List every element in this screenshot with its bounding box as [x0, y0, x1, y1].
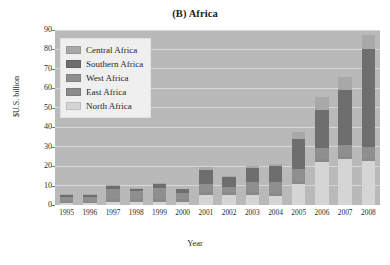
bar-segment[interactable] [292, 139, 305, 169]
chart-title: (B) Africa [0, 8, 390, 19]
legend-item-label: Central Africa [86, 46, 137, 55]
x-axis-tick-label: 2003 [241, 208, 264, 217]
bar-stack[interactable] [315, 97, 328, 205]
x-axis-tick-label: 2001 [194, 208, 217, 217]
bar-segment[interactable] [153, 202, 166, 205]
bar-stack[interactable] [60, 194, 73, 205]
gridline [55, 185, 380, 186]
legend-item[interactable]: Southern Africa [66, 57, 143, 71]
y-axis-tick-label: 70 [22, 65, 52, 73]
y-axis-tick-label: 10 [22, 182, 52, 190]
x-axis-tick-label: 2005 [287, 208, 310, 217]
y-axis-tick-label: 90 [22, 26, 52, 34]
bar-segment[interactable] [199, 184, 212, 193]
bar-segment[interactable] [315, 162, 328, 205]
bar-segment[interactable] [222, 177, 235, 187]
bar-segment[interactable] [362, 161, 375, 205]
x-axis-tick-label: 2004 [264, 208, 287, 217]
legend-item-label: East Africa [86, 88, 126, 97]
x-axis-tick-label: 2000 [171, 208, 194, 217]
bar-segment[interactable] [246, 182, 259, 193]
bar-segment[interactable] [83, 203, 96, 205]
legend-item[interactable]: East Africa [66, 85, 143, 99]
bar-stack[interactable] [292, 132, 305, 205]
x-axis-tick-label: 2002 [218, 208, 241, 217]
bar-stack[interactable] [176, 189, 189, 205]
gridline [55, 127, 380, 128]
legend-swatch-icon [66, 46, 81, 54]
bar-stack[interactable] [106, 185, 119, 205]
y-axis-tick-label: 50 [22, 104, 52, 112]
x-axis-tick-label: 1996 [78, 208, 101, 217]
y-axis-tick-mark [51, 88, 55, 89]
bar-stack[interactable] [130, 188, 143, 205]
y-axis-label: $U.S. billion [12, 47, 21, 147]
bar-segment[interactable] [269, 166, 282, 182]
y-axis-tick-label: 0 [22, 201, 52, 209]
bar-segment[interactable] [292, 169, 305, 181]
bar-segment[interactable] [362, 49, 375, 146]
gridline [55, 146, 380, 147]
legend-item-label: Southern Africa [86, 60, 143, 69]
bar-stack[interactable] [83, 194, 96, 205]
bar-segment[interactable] [315, 97, 328, 110]
bar-segment[interactable] [153, 188, 166, 200]
chart-legend: Central AfricaSouthern AfricaWest Africa… [60, 38, 151, 118]
legend-swatch-icon [66, 88, 81, 96]
bar-segment[interactable] [106, 189, 119, 199]
bar-stack[interactable] [222, 176, 235, 205]
bar-segment[interactable] [246, 195, 259, 205]
bar-stack[interactable] [362, 35, 375, 205]
y-axis-tick-mark [51, 166, 55, 167]
x-axis-tick-label: 1997 [101, 208, 124, 217]
bar-stack[interactable] [269, 164, 282, 205]
bar-segment[interactable] [269, 196, 282, 205]
bar-segment[interactable] [106, 202, 119, 205]
bar-segment[interactable] [199, 195, 212, 205]
x-axis-tick-label: 2008 [357, 208, 380, 217]
y-axis-tick-mark [51, 69, 55, 70]
x-axis-tick-label: 2007 [334, 208, 357, 217]
legend-item-label: West Africa [86, 74, 129, 83]
bar-stack[interactable] [338, 77, 351, 205]
legend-swatch-icon [66, 60, 81, 68]
bar-segment[interactable] [130, 191, 143, 199]
gridline [55, 30, 380, 31]
bar-stack[interactable] [153, 183, 166, 205]
y-axis-tick-label: 40 [22, 123, 52, 131]
y-axis-tick-label: 60 [22, 84, 52, 92]
bar-segment[interactable] [292, 184, 305, 205]
bar-segment[interactable] [362, 147, 375, 159]
bar-segment[interactable] [246, 168, 259, 182]
y-axis-tick-mark [51, 30, 55, 31]
bar-segment[interactable] [338, 90, 351, 144]
bar-segment[interactable] [222, 195, 235, 205]
legend-item[interactable]: West Africa [66, 71, 143, 85]
legend-item-label: North Africa [86, 102, 132, 111]
bar-stack[interactable] [199, 167, 212, 205]
bar-segment[interactable] [338, 159, 351, 205]
y-axis-tick-mark [51, 49, 55, 50]
y-axis-tick-label: 30 [22, 143, 52, 151]
y-axis-tick-mark [51, 127, 55, 128]
bar-segment[interactable] [315, 148, 328, 160]
x-axis-label: Year [0, 238, 390, 248]
bar-segment[interactable] [130, 202, 143, 205]
legend-swatch-icon [66, 74, 81, 82]
bar-segment[interactable] [269, 182, 282, 194]
chart-figure: (B) Africa $U.S. billion Year Central Af… [0, 0, 390, 265]
bar-stack[interactable] [246, 166, 259, 205]
x-axis-tick-label: 1995 [55, 208, 78, 217]
bar-segment[interactable] [176, 202, 189, 205]
bar-segment[interactable] [338, 145, 351, 157]
bar-segment[interactable] [315, 110, 328, 148]
legend-item[interactable]: Central Africa [66, 43, 143, 57]
bar-segment[interactable] [362, 35, 375, 50]
bar-segment[interactable] [292, 132, 305, 139]
legend-swatch-icon [66, 102, 81, 110]
y-axis-tick-mark [51, 147, 55, 148]
bar-segment[interactable] [338, 77, 351, 91]
bar-segment[interactable] [199, 170, 212, 184]
legend-item[interactable]: North Africa [66, 99, 143, 113]
bar-segment[interactable] [60, 203, 73, 205]
